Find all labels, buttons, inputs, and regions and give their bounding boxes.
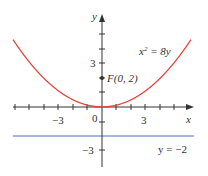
directrix-label: y = −2 xyxy=(158,143,187,155)
y-tick-label-3: 3 xyxy=(90,57,96,69)
y-axis-arrow-icon xyxy=(99,14,105,22)
x-axis-arrow-icon xyxy=(186,104,194,110)
focus-label: F(0, 2) xyxy=(106,72,138,85)
origin-label: 0 xyxy=(92,112,98,124)
parabola-diagram: y x 0 −3 3 3 −3 F(0, 2) x2 = 8y y = −2 xyxy=(0,0,208,176)
x-tick-label-3: 3 xyxy=(141,114,147,126)
curve-equation-label: x2 = 8y xyxy=(138,45,171,57)
focus-point xyxy=(100,76,104,80)
y-axis-label: y xyxy=(91,10,97,22)
x-tick-label-neg3: −3 xyxy=(52,114,64,126)
y-tick-label-neg3: −3 xyxy=(82,144,94,156)
x-axis-label: x xyxy=(185,113,191,125)
